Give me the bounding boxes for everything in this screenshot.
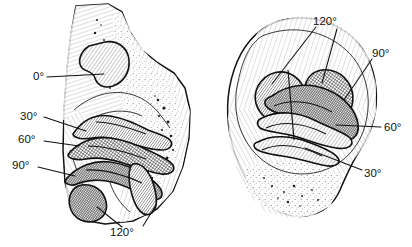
label-30deg: 30° [20,110,37,122]
right-label-60deg: 60° [384,121,401,133]
contact-patch-120deg-medial [69,185,106,222]
right-label-120deg: 120° [313,15,337,27]
label-120deg: 120° [110,226,134,238]
right-label-30deg: 30° [364,167,381,179]
label-0deg: 0° [33,70,44,82]
label-90deg: 90° [12,159,29,171]
figure-canvas: 0° 30° 60° 90° 120° [0,0,412,247]
label-60deg: 60° [18,133,35,145]
anatomical-figure-plate: 0° 30° 60° 90° 120° [0,0,412,247]
right-label-90deg: 90° [372,47,389,59]
